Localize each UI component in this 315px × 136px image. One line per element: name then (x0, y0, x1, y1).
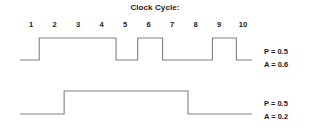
signal-1-annotation: P = 0.5 A = 0.6 (264, 46, 288, 71)
signal-2-p-label: P = 0.5 (264, 98, 288, 111)
waveform-signal-1 (20, 38, 252, 60)
signal-1-p-label: P = 0.5 (264, 46, 288, 59)
waveform-signal-2 (20, 91, 252, 114)
signal-2-a-label: A = 0.2 (264, 111, 288, 124)
timing-diagram-figure: Clock Cycle: 1 2 3 4 5 6 7 8 9 10 P = 0.… (0, 0, 315, 136)
signal-1-a-label: A = 0.6 (264, 59, 288, 72)
signal-2-annotation: P = 0.5 A = 0.2 (264, 98, 288, 123)
